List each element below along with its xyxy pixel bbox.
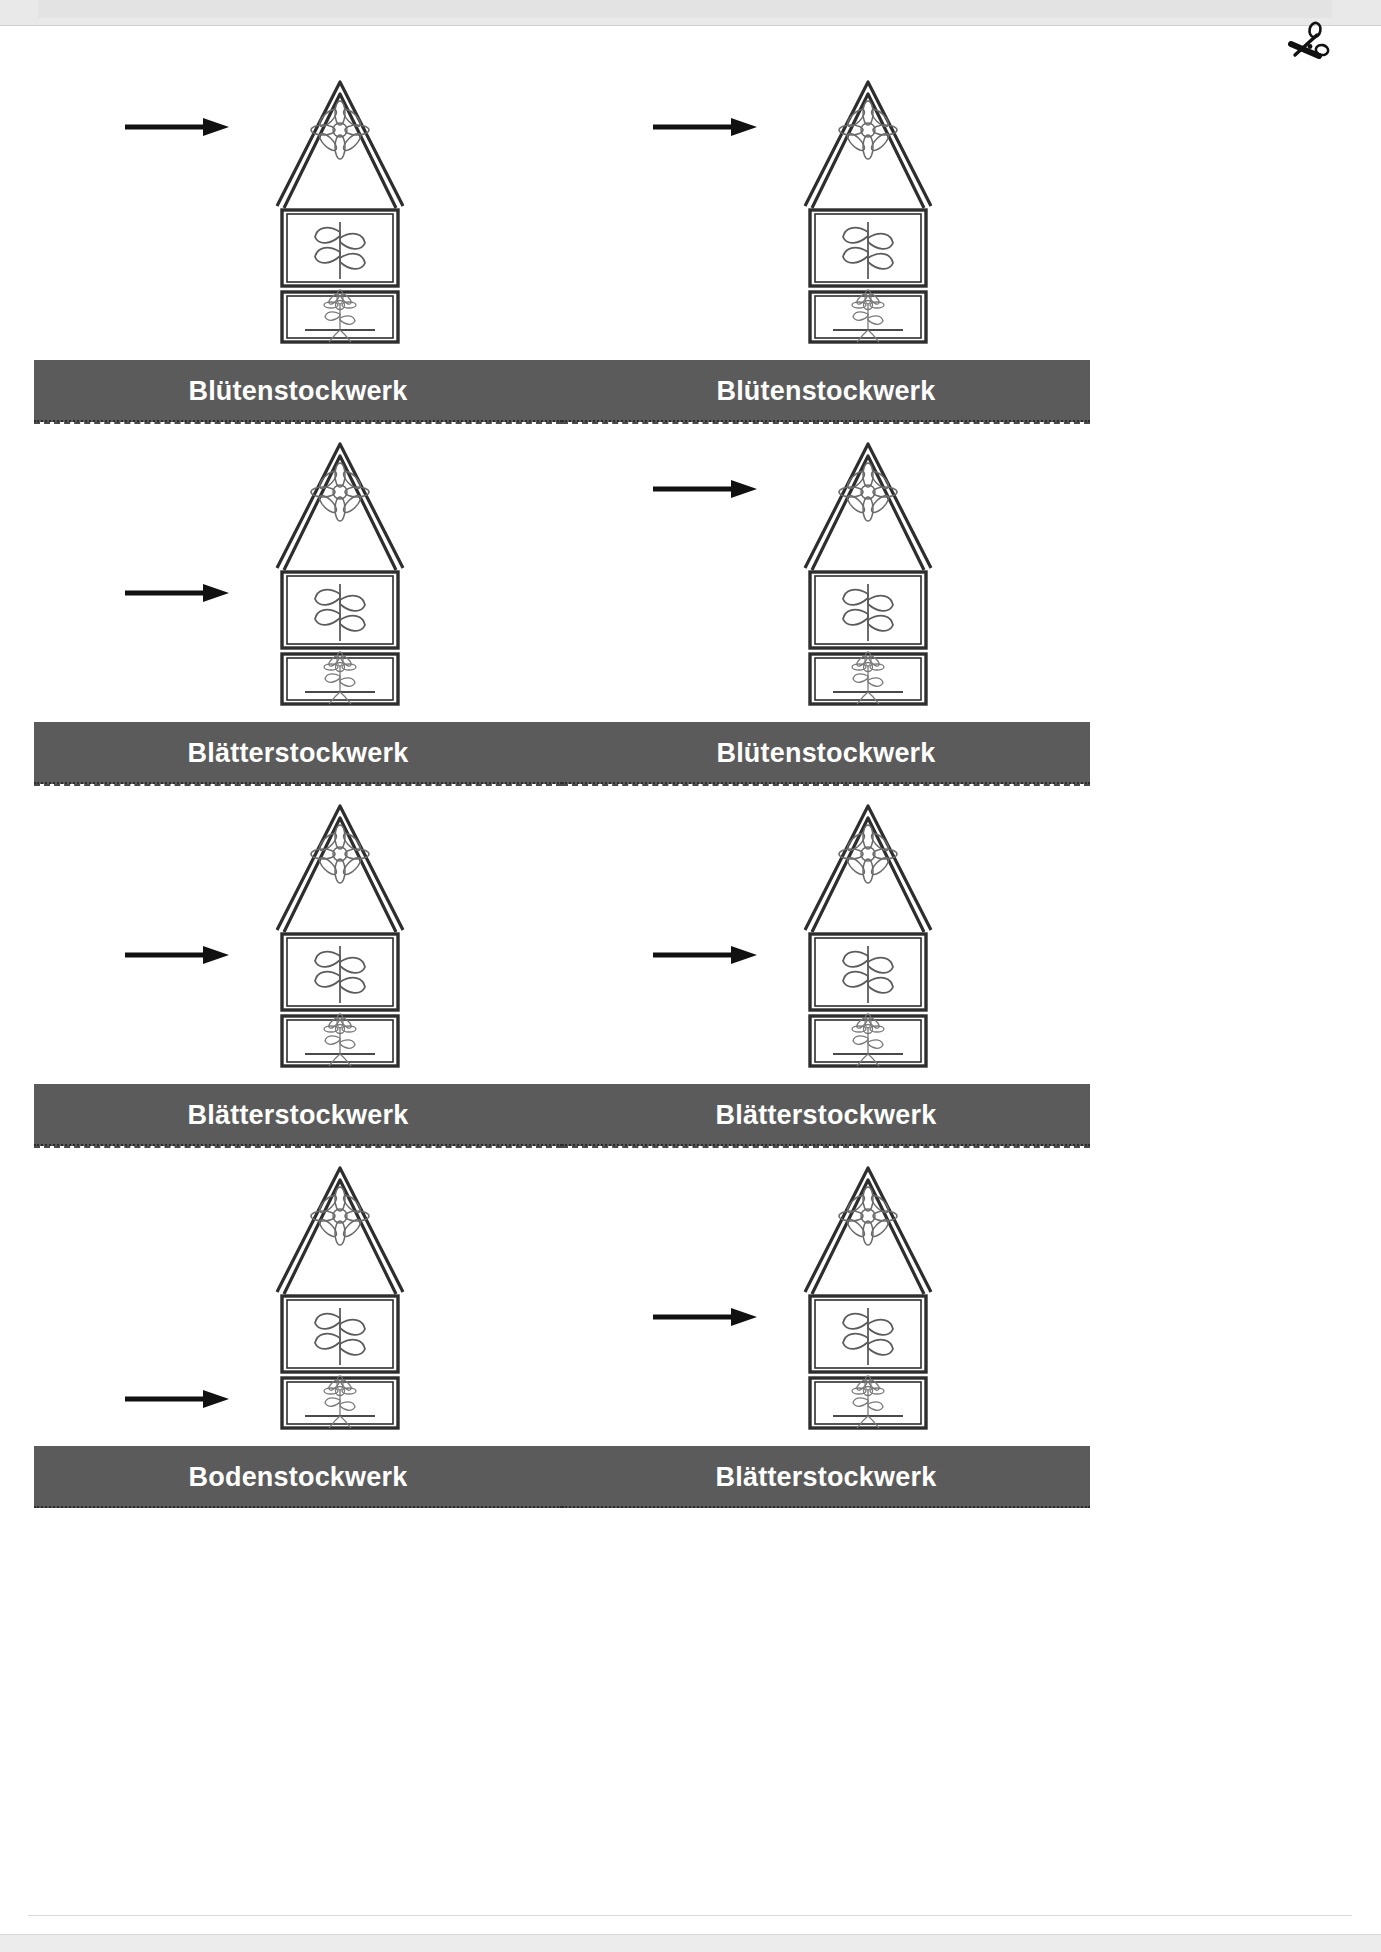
arrow-right-icon [651,1306,759,1328]
arrow-right-icon [123,116,231,138]
plant-house-diagram [265,74,415,346]
scan-bottom-band [0,1934,1381,1952]
card-7-label-band: Bodenstockwerk [34,1446,562,1508]
scan-top-band-inner [38,0,1332,18]
arrow-right-icon [123,1388,231,1410]
card-5[interactable]: Blätterstockwerk [34,784,562,1146]
card-4[interactable]: Blütenstockwerk [562,422,1090,784]
card-5-label-band: Blätterstockwerk [34,1084,562,1146]
arrow-right-icon [651,944,759,966]
plant-house-diagram [793,1160,943,1432]
card-4-label: Blütenstockwerk [716,738,935,769]
card-5-illustration [34,784,562,1084]
arrow-right-icon [651,478,759,500]
card-2-label: Blütenstockwerk [716,376,935,407]
plant-house-diagram [793,798,943,1070]
scan-top-band [0,0,1381,26]
scissors-icon [1285,22,1337,66]
plant-house-diagram [793,74,943,346]
card-7-label: Bodenstockwerk [189,1462,408,1493]
card-grid: Blütenstockwerk [34,60,1090,1508]
card-1-illustration [34,60,562,360]
card-2-illustration [562,60,1090,360]
card-1[interactable]: Blütenstockwerk [34,60,562,422]
card-6-label: Blätterstockwerk [716,1100,937,1131]
card-2-label-band: Blütenstockwerk [562,360,1090,422]
card-3-label-band: Blätterstockwerk [34,722,562,784]
card-1-label: Blütenstockwerk [188,376,407,407]
arrow-right-icon [123,582,231,604]
card-6-illustration [562,784,1090,1084]
plant-house-diagram [793,436,943,708]
arrow-right-icon [651,116,759,138]
plant-house-diagram [265,1160,415,1432]
card-3-label: Blätterstockwerk [188,738,409,769]
arrow-right-icon [123,944,231,966]
card-6[interactable]: Blätterstockwerk [562,784,1090,1146]
card-5-label: Blätterstockwerk [188,1100,409,1131]
card-3-illustration [34,422,562,722]
card-7-illustration [34,1146,562,1446]
card-4-illustration [562,422,1090,722]
card-3[interactable]: Blätterstockwerk [34,422,562,784]
card-8-illustration [562,1146,1090,1446]
plant-house-diagram [265,436,415,708]
scan-bottom-rule [28,1915,1352,1916]
card-4-label-band: Blütenstockwerk [562,722,1090,784]
worksheet-cut-sheet: Blütenstockwerk [34,60,1090,1508]
card-7[interactable]: Bodenstockwerk [34,1146,562,1508]
card-1-label-band: Blütenstockwerk [34,360,562,422]
plant-house-diagram [265,798,415,1070]
card-8-label-band: Blätterstockwerk [562,1446,1090,1508]
card-6-label-band: Blätterstockwerk [562,1084,1090,1146]
card-8[interactable]: Blätterstockwerk [562,1146,1090,1508]
card-8-label: Blätterstockwerk [716,1462,937,1493]
card-2[interactable]: Blütenstockwerk [562,60,1090,422]
